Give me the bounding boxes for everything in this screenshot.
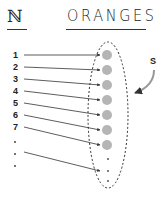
number-label: 7 <box>13 122 18 132</box>
number-label: 1 <box>13 50 18 60</box>
orange-icon <box>102 80 112 90</box>
set-label-arrow <box>135 70 154 93</box>
orange-icon <box>102 95 112 105</box>
number-label: 5 <box>13 98 18 108</box>
orange-icon <box>102 65 112 75</box>
ellipsis-dot <box>14 141 16 143</box>
orange-icon <box>102 50 112 60</box>
ellipsis-dot <box>14 165 16 167</box>
mapping-diagram: 1234567 S <box>0 0 163 197</box>
ellipsis-dot <box>107 180 109 182</box>
mapping-arrow <box>24 115 100 130</box>
orange-icon <box>102 110 112 120</box>
mapping-arrow <box>24 79 100 85</box>
ellipsis-dot <box>14 153 16 155</box>
number-label: 6 <box>13 110 18 120</box>
orange-icon <box>102 125 112 135</box>
mapping-arrow <box>24 67 100 70</box>
set-label: S <box>150 56 156 66</box>
number-label: 4 <box>13 86 18 96</box>
number-label: 2 <box>13 62 18 72</box>
number-label: 3 <box>13 74 18 84</box>
mapping-arrow-n <box>24 152 100 171</box>
orange-icon <box>102 140 112 150</box>
ellipsis-dot <box>107 170 109 172</box>
ellipsis-dot <box>107 158 109 160</box>
